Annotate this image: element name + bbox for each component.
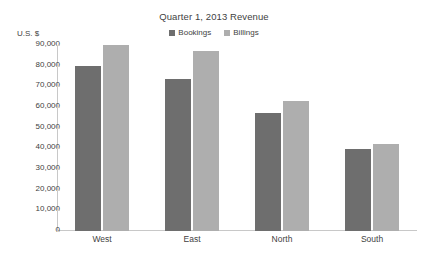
x-axis-label-east: East	[147, 234, 237, 244]
bar-east-billings	[193, 51, 219, 231]
bar-east-bookings	[165, 79, 191, 231]
bar-south-billings	[373, 144, 399, 231]
bar-group-south	[345, 45, 399, 231]
x-axis-label-west: West	[57, 234, 147, 244]
x-axis-label-south: South	[327, 234, 417, 244]
bar-north-billings	[283, 101, 309, 231]
bar-north-bookings	[255, 113, 281, 231]
chart-legend: BookingsBillings	[0, 28, 428, 37]
legend-item-billings: Billings	[224, 28, 258, 37]
bars-layer	[57, 45, 417, 231]
legend-label: Bookings	[178, 28, 211, 37]
y-axis-tick-mark	[57, 231, 60, 232]
bar-group-east	[165, 45, 219, 231]
legend-label: Billings	[233, 28, 258, 37]
x-axis-label-north: North	[237, 234, 327, 244]
bar-west-bookings	[75, 66, 101, 231]
bar-group-north	[255, 45, 309, 231]
bar-west-billings	[103, 45, 129, 231]
y-axis-title: U.S. $	[17, 29, 39, 38]
chart-title: Quarter 1, 2013 Revenue	[0, 11, 428, 22]
legend-swatch-icon	[224, 30, 230, 36]
bar-south-bookings	[345, 149, 371, 231]
legend-item-bookings: Bookings	[169, 28, 211, 37]
x-axis-labels: WestEastNorthSouth	[57, 234, 417, 250]
bar-group-west	[75, 45, 129, 231]
legend-swatch-icon	[169, 30, 175, 36]
bar-chart: Quarter 1, 2013 Revenue BookingsBillings…	[0, 0, 428, 259]
